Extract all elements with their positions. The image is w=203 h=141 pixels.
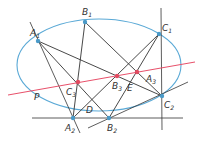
label-C1: C1 — [162, 23, 172, 34]
label-A1: A1 — [29, 28, 40, 39]
point-B1 — [83, 20, 87, 24]
segment-B1-C2 — [85, 22, 162, 96]
label-D: D — [86, 105, 93, 115]
ellipse-conic — [17, 19, 181, 111]
point-A3 — [135, 70, 139, 74]
label-C2: C2 — [164, 100, 174, 111]
label-subscript: 2 — [71, 127, 75, 134]
point-A1 — [36, 39, 40, 43]
label-A2: A2 — [64, 123, 75, 134]
label-subscript: 2 — [113, 127, 117, 134]
label-A3: A3 — [145, 74, 156, 85]
label-subscript: 2 — [170, 104, 174, 111]
label-B3: B3 — [112, 81, 122, 92]
label-P: P — [34, 92, 40, 102]
point-A2 — [71, 116, 75, 120]
label-subscript: 3 — [152, 78, 156, 85]
label-subscript: 1 — [88, 11, 92, 18]
point-B3 — [115, 74, 119, 78]
label-B1: B1 — [82, 7, 92, 18]
label-subscript: 1 — [36, 32, 40, 39]
point-C2 — [160, 94, 164, 98]
point-B2 — [107, 116, 111, 120]
segment-B1-A2 — [73, 22, 85, 118]
label-E: E — [127, 83, 133, 93]
pascal-diagram: A1B1C1A2B2C2A3B3C3PDE — [0, 0, 203, 141]
label-subscript: 3 — [72, 91, 76, 98]
point-C1 — [157, 32, 161, 36]
label-C3: C3 — [66, 87, 76, 98]
label-subscript: 3 — [118, 85, 122, 92]
point-C3 — [76, 80, 80, 84]
diagram-canvas: A1B1C1A2B2C2A3B3C3PDE — [0, 0, 203, 141]
label-B2: B2 — [107, 123, 117, 134]
label-subscript: 1 — [168, 27, 172, 34]
